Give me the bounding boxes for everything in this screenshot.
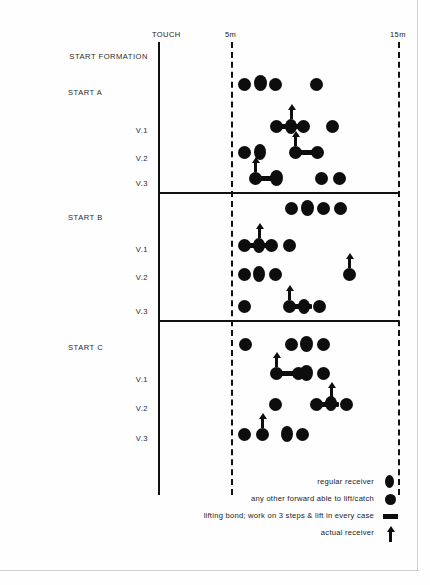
row-label-start-a: START A	[68, 88, 148, 98]
row-label-c-v2: V.2	[68, 404, 148, 414]
player-dot	[310, 398, 323, 411]
player-dot	[238, 78, 251, 91]
player-dot	[269, 78, 282, 91]
player-dot	[310, 78, 323, 91]
touch-line	[158, 42, 160, 495]
player-dot	[326, 120, 339, 133]
section-divider-a-b	[158, 192, 399, 194]
row-label-start-b: START B	[68, 213, 148, 223]
player-dot	[270, 170, 283, 186]
player-dot	[315, 172, 328, 185]
actual-receiver-arrow	[327, 382, 336, 397]
bond-bar-icon	[378, 508, 402, 525]
actual-receiver-arrow	[291, 131, 300, 146]
actual-receiver-arrow	[287, 104, 296, 119]
axis-label-5m: 5m	[225, 30, 236, 39]
legend-item-other-forward: any other forward able to lift/catch	[120, 491, 410, 508]
player-dot	[269, 398, 282, 411]
row-label-b-v3: V.3	[68, 307, 148, 317]
actual-receiver-arrow	[251, 157, 260, 172]
legend: regular receiver any other forward able …	[120, 474, 410, 542]
five-metre-line	[231, 42, 233, 495]
row-label-start-c: START C	[68, 343, 148, 353]
player-dot	[254, 75, 267, 91]
actual-receiver-arrow	[272, 352, 281, 367]
player-dot	[298, 299, 310, 314]
player-dot	[283, 239, 296, 252]
up-arrow-icon	[378, 525, 402, 542]
row-label-a-v1: V.1	[68, 126, 148, 136]
legend-label-regular-receiver: regular receiver	[317, 477, 374, 486]
axis-label-15m: 15m	[390, 30, 406, 39]
lineout-formation-diagram: TOUCH 5m 15m START FORMATION START A V.1…	[0, 0, 430, 585]
oval-dot-icon	[378, 474, 402, 491]
player-dot	[269, 268, 282, 281]
legend-label-other-forward: any other forward able to lift/catch	[251, 494, 374, 503]
player-dot	[238, 300, 251, 313]
row-label-a-v2: V.2	[68, 154, 148, 164]
row-label-c-v1: V.1	[68, 375, 148, 385]
section-divider-b-c	[158, 320, 399, 322]
player-dot	[325, 396, 337, 411]
player-dot	[253, 266, 265, 282]
row-label-c-v3: V.3	[68, 434, 148, 444]
player-dot	[313, 300, 326, 313]
actual-receiver-arrow	[345, 253, 354, 268]
player-dot	[301, 200, 314, 216]
row-label-b-v1: V.1	[68, 245, 148, 255]
player-dot	[333, 172, 346, 185]
player-dot	[285, 202, 298, 215]
player-dot	[281, 426, 293, 442]
player-dot	[296, 428, 309, 441]
player-dot	[270, 367, 283, 380]
page-frame: TOUCH 5m 15m START FORMATION START A V.1…	[0, 0, 430, 585]
player-dot	[249, 172, 262, 185]
legend-item-lifting-bond: lifting bond; work on 3 steps & lift in …	[120, 508, 410, 525]
actual-receiver-arrow	[255, 223, 264, 238]
player-dot	[283, 300, 296, 313]
player-dot	[300, 336, 313, 352]
player-dot	[239, 338, 252, 351]
player-dot	[340, 398, 353, 411]
row-label-a-v3: V.3	[68, 179, 148, 189]
player-dot	[311, 146, 324, 159]
actual-receiver-arrow	[285, 285, 294, 300]
legend-item-regular-receiver: regular receiver	[120, 474, 410, 491]
player-dot	[317, 367, 330, 380]
player-dot	[270, 120, 283, 133]
player-dot	[317, 202, 330, 215]
player-dot	[238, 146, 251, 159]
label-start-formation: START FORMATION	[60, 52, 148, 63]
player-dot	[317, 338, 330, 351]
fifteen-metre-line	[398, 42, 400, 495]
legend-label-actual-receiver: actual receiver	[321, 528, 374, 537]
player-dot	[256, 428, 269, 441]
player-dot	[238, 268, 251, 281]
player-dot	[343, 268, 356, 281]
row-label-b-v2: V.2	[68, 273, 148, 283]
player-dot	[285, 338, 298, 351]
legend-item-actual-receiver: actual receiver	[120, 525, 410, 542]
legend-label-lifting-bond: lifting bond; work on 3 steps & lift in …	[204, 511, 374, 520]
player-dot	[334, 202, 347, 215]
player-dot	[265, 239, 278, 252]
player-dot	[289, 146, 302, 159]
player-dot	[238, 239, 251, 252]
player-dot	[300, 365, 313, 381]
player-dot	[253, 238, 265, 253]
actual-receiver-arrow	[258, 413, 267, 428]
axis-label-touch: TOUCH	[152, 30, 181, 39]
round-dot-icon	[378, 491, 402, 508]
player-dot	[238, 428, 251, 441]
